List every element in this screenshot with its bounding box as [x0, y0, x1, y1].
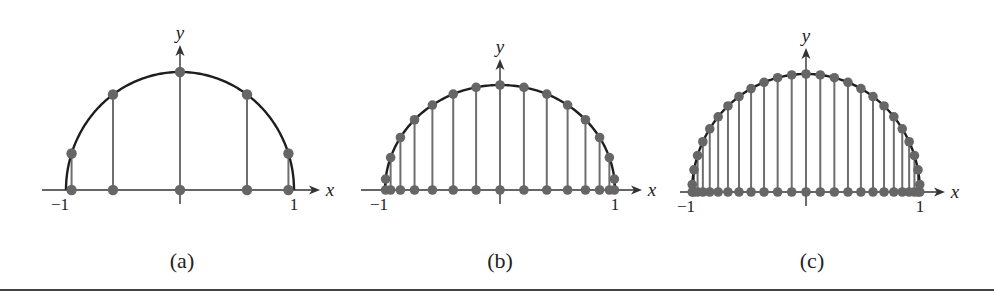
node-dot-curve [879, 101, 889, 111]
bottom-rule-divider [0, 289, 994, 291]
node-dot-axis [66, 185, 76, 195]
node-dot-axis [175, 185, 185, 195]
node-dot-curve [386, 153, 396, 163]
node-dot-curve [563, 100, 573, 110]
tick-label-one: 1 [290, 195, 299, 214]
node-dot-axis [773, 187, 783, 197]
y-axis-label: y [494, 36, 505, 57]
node-dot-axis [879, 187, 889, 197]
node-dot-curve [610, 174, 620, 184]
node-dot-curve [698, 137, 708, 147]
node-dot-curve [605, 153, 615, 163]
node-dot-axis [519, 185, 529, 195]
node-dot-curve [746, 84, 756, 94]
node-dot-axis [705, 187, 715, 197]
node-dot-axis [563, 185, 573, 195]
node-dot-axis [581, 185, 591, 195]
node-dot-curve [396, 133, 406, 143]
node-dot-curve [693, 151, 703, 161]
node-dot-curve [542, 89, 552, 99]
node-dot-curve [913, 165, 923, 175]
node-dot-axis [386, 185, 396, 195]
node-dot-curve [428, 100, 438, 110]
node-dot-axis [448, 185, 458, 195]
node-dot-axis [723, 187, 733, 197]
node-dot-axis [471, 185, 481, 195]
tick-label-one: 1 [611, 195, 620, 214]
node-dot-curve [889, 112, 899, 122]
node-dot-axis [759, 187, 769, 197]
node-dot-curve [283, 148, 293, 158]
panel-a-caption: (a) [170, 248, 194, 274]
node-dot-curve [897, 124, 907, 134]
x-axis-label: x [325, 179, 335, 200]
node-dot-axis [746, 187, 756, 197]
node-dot-curve [868, 92, 878, 102]
node-dot-curve [759, 77, 769, 87]
node-dot-axis [801, 187, 811, 197]
node-dot-axis [610, 185, 620, 195]
node-dot-curve [519, 82, 529, 92]
panel-c-plot: −11xy [677, 25, 960, 216]
node-dot-curve [108, 89, 118, 99]
node-dot-curve [734, 92, 744, 102]
node-dot-curve [595, 133, 605, 143]
node-dot-axis [495, 185, 505, 195]
node-dot-curve [448, 89, 458, 99]
node-dot-axis [734, 187, 744, 197]
node-dot-axis [396, 185, 406, 195]
panel-b-caption: (b) [487, 248, 513, 274]
tick-label-minus-one: −1 [51, 195, 69, 214]
panel-b-plot: −11xy [361, 36, 657, 214]
y-axis-label: y [174, 22, 185, 43]
node-dot-curve [801, 69, 811, 79]
node-dot-axis [830, 187, 840, 197]
y-axis-label: y [800, 25, 811, 46]
node-dot-curve [856, 84, 866, 94]
node-dot-curve [66, 148, 76, 158]
node-dot-curve [689, 165, 699, 175]
node-dot-axis [843, 187, 853, 197]
node-dot-curve [410, 115, 420, 125]
panel-a-plot: −11xy [42, 22, 335, 214]
node-dot-axis [889, 187, 899, 197]
node-dot-axis [283, 185, 293, 195]
node-dot-curve [581, 115, 591, 125]
node-dot-axis [428, 185, 438, 195]
node-dot-axis [713, 187, 723, 197]
panel-c-caption: (c) [800, 248, 824, 274]
node-dot-curve [904, 137, 914, 147]
node-dot-curve [787, 70, 797, 80]
node-dot-axis [542, 185, 552, 195]
x-axis-label: x [950, 181, 960, 202]
node-dot-axis [595, 185, 605, 195]
node-dot-axis [787, 187, 797, 197]
node-dot-curve [705, 124, 715, 134]
node-dot-axis [108, 185, 118, 195]
node-dot-curve [495, 80, 505, 90]
node-dot-curve [713, 112, 723, 122]
node-dot-curve [910, 151, 920, 161]
figure: −11xy −11xy −11xy (a) (b) (c) [0, 0, 994, 301]
node-dot-axis [410, 185, 420, 195]
node-dot-curve [815, 70, 825, 80]
node-dot-curve [242, 89, 252, 99]
node-dot-curve [843, 77, 853, 87]
x-axis-label: x [647, 179, 657, 200]
node-dot-axis [856, 187, 866, 197]
tick-label-one: 1 [916, 197, 925, 216]
node-dot-curve [915, 180, 925, 190]
node-dot-curve [723, 101, 733, 111]
tick-label-minus-one: −1 [370, 195, 388, 214]
tick-label-minus-one: −1 [677, 197, 695, 216]
node-dot-curve [381, 174, 391, 184]
node-dot-axis [242, 185, 252, 195]
node-dot-axis [868, 187, 878, 197]
node-dot-curve [175, 67, 185, 77]
node-dot-curve [773, 73, 783, 83]
node-dot-curve [471, 82, 481, 92]
node-dot-curve [830, 73, 840, 83]
node-dot-axis [815, 187, 825, 197]
